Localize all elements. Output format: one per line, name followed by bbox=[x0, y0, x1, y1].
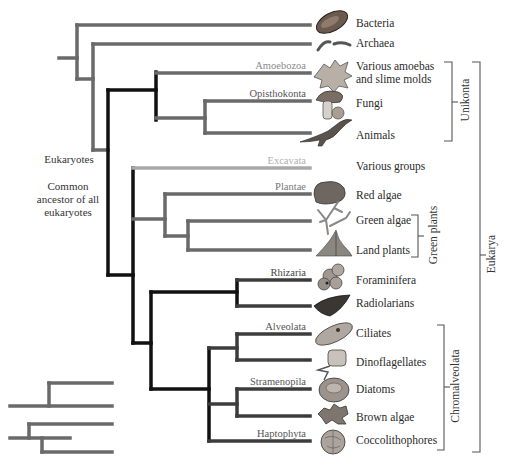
foram-icon bbox=[318, 264, 344, 290]
clade-label-alveolata: Alveolata bbox=[265, 321, 306, 333]
taxon-label: Coccolithophores bbox=[356, 434, 437, 447]
rhizaria-chromalveolata-branches bbox=[209, 280, 310, 441]
taxon-label: Diatoms bbox=[356, 383, 395, 396]
clade-label-rhizaria: Rhizaria bbox=[270, 267, 306, 279]
eukaryotes-label: Eukaryotes bbox=[40, 153, 98, 166]
clade-label-stramenopila: Stramenopila bbox=[250, 376, 306, 388]
taxon-label: Foraminifera bbox=[356, 274, 416, 287]
green-alga-icon bbox=[318, 202, 350, 234]
mini-tree-legend bbox=[10, 383, 112, 452]
taxon-label: Ciliates bbox=[356, 327, 391, 340]
taxon-label: Brown algae bbox=[356, 411, 414, 424]
bracket-label-unikonta: Unikonta bbox=[459, 70, 471, 130]
clade-label-haptophyta: Haptophyta bbox=[257, 428, 306, 440]
taxon-label: Archaea bbox=[356, 37, 394, 50]
taxon-label: Red algae bbox=[356, 189, 402, 202]
taxon-label: Various groups bbox=[356, 160, 425, 173]
taxon-label: Land plants bbox=[356, 244, 410, 257]
taxon-label: Animals bbox=[356, 129, 395, 142]
clade-label-plantae: Plantae bbox=[275, 181, 306, 193]
taxon-label: Dinoflagellates bbox=[356, 356, 426, 369]
bracket-label-eukarya: Eukarya bbox=[485, 229, 497, 279]
red-alga-icon bbox=[314, 182, 345, 204]
taxon-label: Green algae bbox=[356, 214, 411, 227]
clade-label-amoebozoa: Amoebozoa bbox=[255, 60, 306, 72]
coccolithophore-icon bbox=[321, 430, 345, 454]
dinoflagellate-icon bbox=[318, 350, 346, 380]
ciliate-icon bbox=[312, 318, 355, 349]
eukaryote-backbone bbox=[108, 72, 237, 441]
bracket-label-green-plants: Green plants bbox=[427, 200, 439, 270]
clade-label-excavata: Excavata bbox=[268, 155, 306, 167]
diatom-icon bbox=[319, 378, 349, 402]
taxon-label: Various amoebas and slime molds bbox=[356, 60, 446, 86]
amoeba-icon bbox=[314, 60, 352, 92]
unikonta-branches bbox=[156, 73, 310, 133]
plantae-branches bbox=[133, 194, 310, 250]
taxon-label: Bacteria bbox=[356, 17, 394, 30]
mushroom-icon bbox=[316, 91, 344, 119]
taxon-label: Fungi bbox=[356, 97, 383, 110]
bracket-label-chromalveolata: Chromalveolata bbox=[449, 341, 461, 431]
fern-icon bbox=[316, 230, 352, 256]
common-ancestor-label: Common ancestor of all eukaryotes bbox=[34, 180, 102, 219]
archaea-icon bbox=[318, 42, 350, 50]
clade-label-opisthokonta: Opisthokonta bbox=[249, 88, 306, 100]
brown-alga-icon bbox=[318, 404, 348, 424]
taxon-label: Radiolarians bbox=[356, 297, 414, 310]
bacterium-icon bbox=[313, 6, 351, 38]
radiolarian-icon bbox=[314, 295, 350, 316]
